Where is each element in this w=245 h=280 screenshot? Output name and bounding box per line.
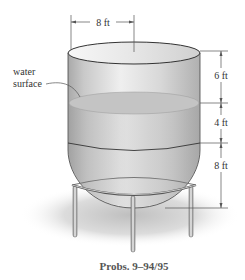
diameter-arrow-right [129,21,134,24]
tank-diagram: water surface 8 ft 6 ft 4 ft 8 ft Probs.… [0,0,245,280]
tank-leg-left [73,186,77,237]
diameter-label: 8 ft [96,17,110,28]
arrow-4ft-bottom [220,138,223,143]
arrow-8ft-top [220,143,223,148]
figure-caption: Probs. 9–94/95 [100,260,169,272]
arrow-6ft-bottom [220,98,223,103]
dim-4ft-label: 4 ft [214,117,228,128]
water-surface-label-line2: surface [13,78,42,89]
dim-8ft-label: 8 ft [214,160,228,171]
arrow-4ft-top [220,103,223,108]
water-surface-label-line1: water [13,66,36,77]
tank-leg-front [131,196,135,252]
dim-6ft-label: 6 ft [214,70,228,81]
water-surface [69,92,199,114]
tank-leg-right [189,186,193,237]
diameter-arrow-left [71,21,76,24]
arrow-6ft-top [220,51,223,56]
